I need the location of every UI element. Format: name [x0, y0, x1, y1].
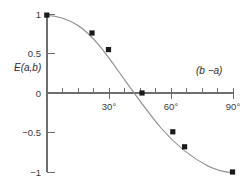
y-tick-label-0: 0: [36, 88, 41, 99]
y-tick-label-1: 1: [36, 9, 41, 20]
correlation-plot: 1 0.5 0 −0.5 −1 30° 60° 90° E(a,b) (b −a…: [0, 0, 249, 188]
data-point: [106, 47, 111, 52]
data-point: [139, 90, 144, 95]
y-axis-title: E(a,b): [14, 62, 41, 73]
data-point: [182, 144, 187, 149]
y-tick-label-0point5: 0.5: [28, 48, 41, 59]
data-point: [44, 13, 49, 18]
x-tick-label-90deg: 90°: [226, 101, 241, 112]
x-tick-label-60deg: 60°: [164, 101, 179, 112]
data-point: [170, 129, 175, 134]
y-tick-label-neg0point5: −0.5: [22, 127, 41, 138]
x-axis-major-ticks: [109, 93, 233, 99]
x-tick-label-30deg: 30°: [102, 101, 117, 112]
data-point: [89, 30, 94, 35]
y-tick-label-neg1: −1: [30, 167, 41, 178]
chart-figure: 1 0.5 0 −0.5 −1 30° 60° 90° E(a,b) (b −a…: [0, 0, 249, 188]
data-point: [230, 169, 235, 174]
x-axis-title: (b −a): [196, 65, 222, 76]
x-axis-minor-ticks: [63, 88, 234, 94]
